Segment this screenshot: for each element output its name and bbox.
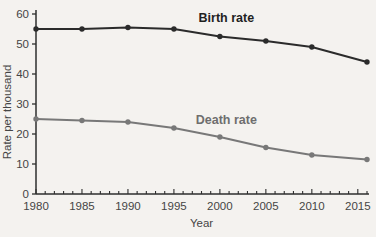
x-tick-label: 2010 bbox=[299, 200, 325, 212]
x-tick-label: 2000 bbox=[207, 200, 233, 212]
data-point-marker bbox=[79, 26, 84, 31]
data-point-marker bbox=[125, 25, 130, 30]
series-label-birth-rate: Birth rate bbox=[199, 11, 255, 25]
x-tick-label: 2005 bbox=[253, 200, 279, 212]
y-tick-label: 30 bbox=[16, 98, 29, 110]
data-point-marker bbox=[171, 26, 176, 31]
y-tick-label: 50 bbox=[16, 38, 29, 50]
data-point-marker bbox=[79, 118, 84, 123]
line-chart: 0102030405060198019851990199520002005201… bbox=[0, 0, 376, 237]
data-point-marker bbox=[309, 152, 314, 157]
data-point-marker bbox=[217, 134, 222, 139]
birth-death-rate-chart-figure: 0102030405060198019851990199520002005201… bbox=[0, 0, 376, 237]
y-tick-label: 0 bbox=[23, 188, 29, 200]
data-point-marker bbox=[309, 44, 314, 49]
data-point-marker bbox=[364, 157, 369, 162]
data-point-marker bbox=[263, 145, 268, 150]
y-tick-label: 10 bbox=[16, 158, 29, 170]
data-point-marker bbox=[171, 125, 176, 130]
y-tick-label: 40 bbox=[16, 68, 29, 80]
x-axis-title: Year bbox=[190, 217, 213, 229]
x-tick-label: 1990 bbox=[115, 200, 141, 212]
series-line-birth-rate bbox=[36, 28, 367, 63]
x-tick-label: 1985 bbox=[69, 200, 95, 212]
data-point-marker bbox=[364, 59, 369, 64]
x-tick-label: 1995 bbox=[161, 200, 187, 212]
data-point-marker bbox=[33, 26, 38, 31]
y-tick-label: 60 bbox=[16, 8, 29, 20]
data-point-marker bbox=[263, 38, 268, 43]
series-label-death-rate: Death rate bbox=[196, 113, 257, 127]
y-tick-label: 20 bbox=[16, 128, 29, 140]
x-tick-label: 2015 bbox=[345, 200, 371, 212]
data-point-marker bbox=[125, 119, 130, 124]
data-point-marker bbox=[33, 116, 38, 121]
data-point-marker bbox=[217, 34, 222, 39]
y-axis-title: Rate per thousand bbox=[1, 65, 13, 160]
x-tick-label: 1980 bbox=[23, 200, 49, 212]
